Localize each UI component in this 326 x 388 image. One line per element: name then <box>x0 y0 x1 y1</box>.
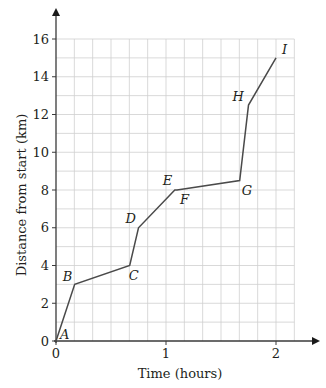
chart-canvas: 0246810121416012 ABCDEFGHI Time (hours) … <box>0 0 326 388</box>
point-label-e: E <box>162 173 173 188</box>
point-label-f: F <box>179 192 190 207</box>
y-tick-label: 10 <box>32 145 49 160</box>
y-axis-title: Distance from start (km) <box>14 114 29 277</box>
axes <box>54 10 318 343</box>
x-tick-label: 0 <box>52 346 60 361</box>
point-label-g: G <box>242 183 252 198</box>
y-tick-label: 0 <box>41 334 49 349</box>
point-label-h: H <box>232 89 245 104</box>
x-tick-label: 1 <box>162 346 170 361</box>
x-tick-label: 2 <box>272 346 280 361</box>
point-label-d: D <box>125 211 137 226</box>
y-tick-label: 8 <box>41 183 49 198</box>
point-label-c: C <box>129 268 139 283</box>
x-axis-title: Time (hours) <box>138 366 223 381</box>
y-tick-label: 14 <box>32 69 49 84</box>
point-label-b: B <box>62 269 73 284</box>
y-tick-label: 4 <box>41 258 49 273</box>
distance-time-graph: 0246810121416012 ABCDEFGHI Time (hours) … <box>0 0 326 388</box>
y-tick-label: 12 <box>32 107 49 122</box>
y-tick-label: 2 <box>41 296 49 311</box>
y-tick-label: 6 <box>41 220 49 235</box>
point-label-a: A <box>59 327 69 342</box>
y-tick-label: 16 <box>32 32 49 47</box>
point-label-i: I <box>281 42 288 57</box>
